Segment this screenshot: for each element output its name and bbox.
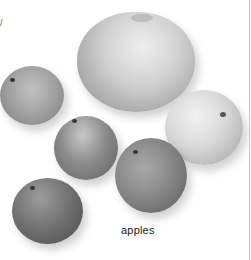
apple-center-bottom <box>115 138 187 213</box>
apple-left <box>0 66 64 125</box>
page-edge-divider <box>249 0 250 260</box>
apple-stem-icon <box>131 14 153 22</box>
apple-stem-icon <box>220 112 226 117</box>
apple-bottom-left <box>12 178 83 244</box>
apple-middle <box>54 116 118 180</box>
corner-mark: / <box>0 18 3 28</box>
apple-stem-icon <box>10 78 15 82</box>
image-caption: apples <box>121 224 155 236</box>
apple-stem-icon <box>30 186 35 190</box>
apple-stem-icon <box>72 119 77 123</box>
apple-stem-icon <box>133 150 138 154</box>
apple-large-top <box>77 12 195 112</box>
